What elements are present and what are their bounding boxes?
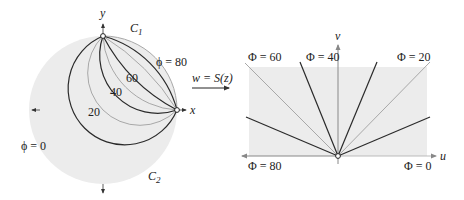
conformal-map-diagram: y x C1 ϕ = 80 60 40 20 ϕ = 0 C2 w = S(z)… bbox=[0, 0, 464, 200]
phi-0-label: ϕ = 0 bbox=[21, 139, 46, 153]
level-label-20: 20 bbox=[88, 105, 100, 119]
point-i bbox=[101, 34, 106, 39]
ray-label-phi-0: Φ = 0 bbox=[404, 159, 432, 173]
ray-label-phi-40: Φ = 40 bbox=[306, 50, 340, 64]
v-axis-label: v bbox=[335, 29, 341, 43]
z-plane-panel: y x C1 ϕ = 80 60 40 20 ϕ = 0 C2 bbox=[21, 6, 196, 193]
u-axis-label: u bbox=[440, 149, 446, 163]
ray-label-phi-80: Φ = 80 bbox=[248, 159, 282, 173]
ray-label-phi-20: Φ = 20 bbox=[397, 50, 431, 64]
origin-point bbox=[336, 154, 341, 159]
x-axis-label: x bbox=[189, 103, 196, 117]
level-label-40: 40 bbox=[110, 85, 122, 99]
level-label-60: 60 bbox=[126, 71, 138, 85]
ray-label-phi-60: Φ = 60 bbox=[248, 50, 282, 64]
c1-label: C1 bbox=[130, 21, 143, 37]
w-plane-panel: v u Φ = 60 Φ = 40 Φ = 20 Φ = 80 Φ = 0 bbox=[242, 29, 446, 173]
c2-label: C2 bbox=[148, 169, 161, 185]
y-axis-label: y bbox=[99, 6, 106, 20]
mapping-label: w = S(z) bbox=[192, 71, 233, 85]
point-one bbox=[175, 108, 180, 113]
mapping-arrow-group: w = S(z) bbox=[192, 71, 233, 88]
phi-80-label: ϕ = 80 bbox=[156, 55, 187, 69]
